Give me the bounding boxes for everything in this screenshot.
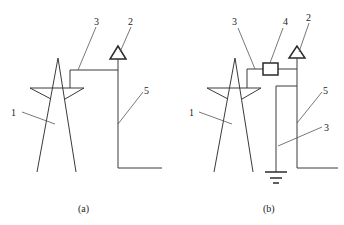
leader-3b — [278, 127, 322, 146]
leader-2 — [299, 23, 309, 52]
panel-b: 1 3 4 2 5 3 (b) — [189, 12, 338, 215]
air-terminal-icon — [110, 46, 126, 59]
leader-1 — [22, 112, 55, 124]
label-5: 5 — [144, 85, 149, 96]
leader-2 — [120, 27, 131, 52]
diagram-canvas: 1 3 2 5 (a) — [0, 0, 344, 225]
label-3b: 3 — [324, 122, 329, 133]
label-5: 5 — [323, 85, 328, 96]
down-conductor — [118, 59, 162, 168]
device-box-icon — [263, 63, 278, 75]
tower-icon — [207, 58, 261, 172]
connector-wire — [247, 69, 297, 88]
leader-1 — [199, 112, 232, 124]
caption-a: (a) — [78, 203, 89, 215]
leader-3 — [78, 27, 96, 70]
tower-icon — [30, 58, 84, 172]
label-1: 1 — [11, 107, 16, 118]
panel-a: 1 3 2 5 (a) — [11, 16, 162, 215]
leader-5 — [118, 92, 143, 124]
leader-4 — [270, 28, 283, 63]
label-3: 3 — [232, 16, 237, 27]
label-2: 2 — [128, 16, 133, 27]
ground-lead — [276, 86, 297, 172]
leader-5 — [297, 92, 322, 123]
connector-wire — [70, 70, 118, 88]
leader-3 — [238, 28, 255, 69]
caption-b: (b) — [263, 203, 275, 215]
label-2: 2 — [306, 12, 311, 23]
label-1: 1 — [189, 107, 194, 118]
ground-symbol-icon — [265, 172, 287, 183]
label-4: 4 — [283, 16, 288, 27]
label-3: 3 — [94, 16, 99, 27]
air-terminal-icon — [289, 46, 305, 58]
down-conductor — [297, 58, 338, 168]
